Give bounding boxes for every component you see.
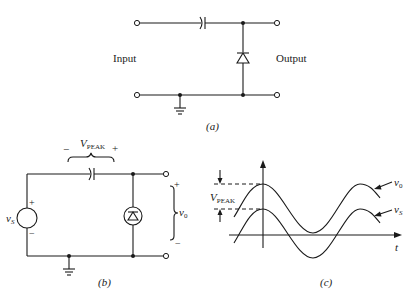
figure-c-caption: (c): [320, 276, 333, 289]
output-top-terminal: [163, 171, 168, 176]
cap-plus-sign: +: [112, 142, 118, 154]
output-brace: [170, 186, 178, 240]
figure-b-caption: (b): [98, 276, 111, 289]
ground-icon: [63, 256, 75, 275]
source-minus-sign: −: [29, 228, 35, 239]
output-voltage-label: v0: [179, 206, 188, 220]
vpeak-label: VPEAK: [80, 137, 105, 151]
cap-minus-sign: −: [63, 143, 69, 155]
figure-c: t VPEAK v0 vS (c): [210, 160, 403, 289]
v0-waveform: [234, 184, 380, 233]
clamper-circuit-figure: Input Output (a): [0, 0, 413, 291]
ideal-diode-circle: [124, 207, 142, 225]
output-plus-sign: +: [174, 179, 180, 190]
bottom-junction-dot: [241, 93, 245, 97]
ground-icon: [174, 95, 186, 114]
source-plus-sign: +: [29, 197, 35, 208]
v0-leader-arrow-icon: [374, 185, 382, 190]
voltage-source-icon: [17, 208, 37, 228]
t-axis-label: t: [395, 241, 399, 253]
vs-label: vS: [394, 203, 403, 217]
figure-a: Input Output (a): [113, 17, 307, 133]
figure-a-caption: (a): [206, 120, 219, 133]
up-arrow-icon: [218, 209, 223, 215]
vs-waveform: [234, 209, 380, 258]
vs-leader-arrow-icon: [374, 212, 382, 217]
output-top-terminal: [274, 20, 279, 25]
input-label: Input: [113, 52, 136, 64]
y-axis-arrow-icon: [260, 160, 266, 168]
output-bottom-terminal: [274, 92, 279, 97]
source-label: vS: [6, 212, 15, 226]
output-minus-sign: −: [175, 238, 181, 249]
diode-triangle-icon: [237, 53, 249, 63]
figure-b: VPEAK − + vS + − v0 + − (b): [6, 137, 188, 289]
bottom-junction-dot: [131, 254, 135, 258]
vpeak-label: VPEAK: [210, 191, 235, 205]
down-arrow-icon: [218, 178, 223, 184]
output-label: Output: [276, 52, 307, 64]
input-bottom-terminal: [134, 92, 139, 97]
output-bottom-terminal: [163, 253, 168, 258]
vpeak-brace: [68, 153, 114, 162]
input-top-terminal: [134, 20, 139, 25]
v0-label: v0: [394, 176, 403, 190]
t-axis-arrow-icon: [394, 232, 402, 238]
